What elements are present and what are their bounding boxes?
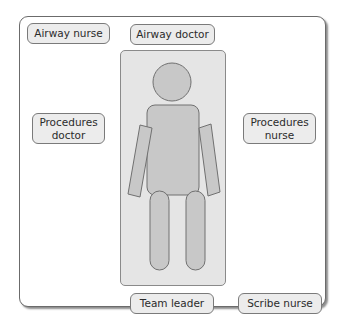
patient-figure-icon (120, 50, 226, 286)
role-label: Airway nurse (34, 27, 103, 40)
role-procedures-nurse: Procedures nurse (243, 113, 316, 144)
role-scribe-nurse: Scribe nurse (238, 293, 322, 314)
role-team-leader: Team leader (130, 293, 214, 314)
role-label: Team leader (140, 297, 204, 310)
right-arm-shape (199, 124, 220, 196)
role-label-line1: Procedures (250, 116, 308, 129)
torso-shape (147, 105, 199, 195)
role-label-line2: doctor (52, 129, 86, 142)
right-leg-shape (186, 191, 205, 270)
role-label-line1: Procedures (39, 116, 97, 129)
left-leg-shape (150, 191, 169, 270)
role-airway-nurse: Airway nurse (27, 23, 110, 44)
role-procedures-doctor: Procedures doctor (32, 113, 105, 144)
role-label-line2: nurse (265, 129, 295, 142)
role-label: Scribe nurse (247, 297, 313, 310)
role-airway-doctor: Airway doctor (130, 24, 215, 45)
head-shape (153, 63, 191, 101)
role-label: Airway doctor (136, 28, 209, 41)
